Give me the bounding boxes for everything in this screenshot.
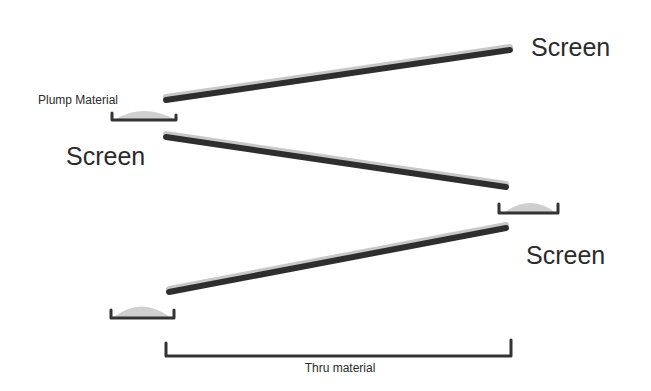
thru-material-label: Thru material — [305, 361, 376, 375]
tray-middle-right — [499, 203, 558, 213]
tray-top-left — [112, 111, 176, 120]
material-pile — [114, 307, 170, 318]
material-pile — [116, 111, 174, 119]
material-pile — [505, 203, 555, 212]
plump-material-label: Plump Material — [38, 93, 118, 107]
tray-bottom-left — [111, 307, 174, 319]
top-screen — [166, 47, 510, 100]
screen-label-top-right: Screen — [531, 33, 610, 61]
thru-material-bracket — [166, 340, 511, 356]
screen-label-bottom-right: Screen — [526, 241, 605, 269]
screen-label-left: Screen — [66, 142, 145, 170]
bottom-screen — [169, 225, 506, 292]
middle-screen — [166, 134, 506, 187]
screening-diagram: Plump Material Screen Screen Screen Thru… — [0, 0, 651, 391]
